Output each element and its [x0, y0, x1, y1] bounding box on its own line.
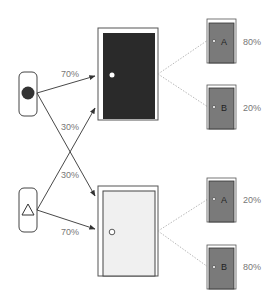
- small-door-letter: B: [221, 262, 227, 272]
- circle-cue: [19, 72, 37, 116]
- filled-circle-icon: [22, 87, 35, 100]
- small-door-letter: B: [221, 103, 227, 113]
- label-circle-to-light: 30%: [61, 170, 79, 180]
- light-door: [98, 186, 158, 276]
- door-knob-icon: [109, 229, 115, 235]
- probability-label: 80%: [243, 37, 261, 47]
- arrows: [37, 76, 95, 229]
- diagram-canvas: [0, 0, 278, 306]
- label-triangle-to-dark: 30%: [61, 122, 79, 132]
- dark-door: [98, 28, 158, 120]
- small-door-letter: A: [221, 37, 227, 47]
- arrow-circle-to-light: [37, 93, 95, 196]
- label-triangle-to-light: 70%: [61, 227, 79, 237]
- probability-label: 20%: [243, 195, 261, 205]
- door-knob-icon: [110, 73, 115, 78]
- dotted-connectors: [158, 40, 208, 267]
- probability-label: 80%: [243, 262, 261, 272]
- triangle-cue: [19, 188, 37, 232]
- probability-label: 20%: [243, 103, 261, 113]
- small-door-letter: A: [221, 195, 227, 205]
- label-circle-to-dark: 70%: [61, 69, 79, 79]
